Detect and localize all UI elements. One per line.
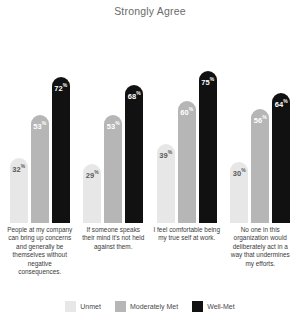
chart-title: Strongly Agree xyxy=(0,0,300,20)
bar-value-label: 39% xyxy=(157,148,175,160)
bar-value-label: 32% xyxy=(10,162,28,174)
bar-group: 30%56%64% xyxy=(224,20,298,223)
chart-legend: UnmetModerately MetWell-Met xyxy=(0,296,300,316)
category-label: People at my company can bring up concer… xyxy=(3,226,77,288)
bar-well-met[interactable]: 64% xyxy=(272,93,290,223)
category-label: I feel comfortable being my true self at… xyxy=(150,226,224,288)
category-label: No one in this organization would delibe… xyxy=(224,226,298,288)
bar-group: 39%60%75% xyxy=(150,20,224,223)
bar-unmet[interactable]: 32% xyxy=(10,158,28,223)
legend-swatch-icon xyxy=(192,301,203,312)
bar-moderately-met[interactable]: 56% xyxy=(251,109,269,223)
legend-item[interactable]: Well-Met xyxy=(192,301,234,312)
bar-value-label: 53% xyxy=(31,119,49,131)
bar-moderately-met[interactable]: 53% xyxy=(31,115,49,223)
bar-value-label: 53% xyxy=(104,119,122,131)
bar-value-label: 64% xyxy=(272,97,290,109)
bar-value-label: 56% xyxy=(251,113,269,125)
legend-item[interactable]: Unmet xyxy=(65,301,101,312)
legend-swatch-icon xyxy=(115,301,126,312)
bar-value-label: 68% xyxy=(125,89,143,101)
plot-area: 32%53%72%29%53%68%39%60%75%30%56%64% xyxy=(0,20,300,223)
bar-moderately-met[interactable]: 53% xyxy=(104,115,122,223)
legend-label: Well-Met xyxy=(207,303,234,310)
category-label-row: People at my company can bring up concer… xyxy=(0,226,300,288)
category-label: If someone speaks their mind it's not he… xyxy=(77,226,151,288)
bar-group: 32%53%72% xyxy=(3,20,77,223)
bar-value-label: 29% xyxy=(83,168,101,180)
bar-value-label: 75% xyxy=(199,75,217,87)
legend-label: Moderately Met xyxy=(130,303,178,310)
legend-item[interactable]: Moderately Met xyxy=(115,301,178,312)
bar-well-met[interactable]: 72% xyxy=(52,77,70,223)
legend-swatch-icon xyxy=(65,301,76,312)
bar-well-met[interactable]: 68% xyxy=(125,85,143,223)
chart-container: Strongly Agree 32%53%72%29%53%68%39%60%7… xyxy=(0,0,300,319)
bar-value-label: 72% xyxy=(52,81,70,93)
bar-unmet[interactable]: 39% xyxy=(157,144,175,223)
bar-group: 29%53%68% xyxy=(77,20,151,223)
bar-well-met[interactable]: 75% xyxy=(199,71,217,223)
bar-moderately-met[interactable]: 60% xyxy=(178,101,196,223)
bar-unmet[interactable]: 30% xyxy=(230,162,248,223)
legend-label: Unmet xyxy=(80,303,101,310)
bar-value-label: 60% xyxy=(178,105,196,117)
bar-unmet[interactable]: 29% xyxy=(83,164,101,223)
bar-value-label: 30% xyxy=(230,166,248,178)
